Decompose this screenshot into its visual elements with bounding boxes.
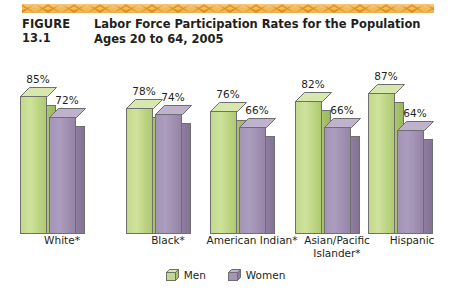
bar-value-label: 72% — [47, 94, 87, 106]
legend-label: Men — [184, 269, 206, 281]
legend-label: Women — [246, 269, 286, 281]
bar-women — [155, 105, 191, 234]
bar-value-label: 82% — [293, 78, 333, 90]
bar-side-face — [182, 123, 191, 234]
bar-value-label: 85% — [18, 73, 58, 85]
bar-top-face — [295, 92, 332, 102]
figure-container: FIGURE 13.1Labor Force Participation Rat… — [0, 0, 451, 294]
bar-front-face — [324, 127, 351, 234]
bar-top-face — [324, 118, 361, 128]
bar-front-face — [210, 111, 237, 234]
bar-value-label: 66% — [237, 104, 277, 116]
bar-front-face — [368, 93, 395, 234]
bar-front-face — [20, 96, 47, 234]
figure-title-block: FIGURE 13.1Labor Force Participation Rat… — [22, 17, 442, 46]
bar-value-label: 64% — [395, 107, 435, 119]
bar-side-face — [424, 139, 433, 234]
bar-side-face — [351, 136, 360, 234]
bar-front-face — [295, 101, 322, 234]
legend-item-men[interactable]: Men — [166, 269, 206, 281]
bar-side-face — [266, 136, 275, 234]
bar-women — [239, 118, 275, 234]
bar-group: 76%66% — [210, 52, 275, 234]
bar-front-face — [155, 114, 182, 234]
zigzag-divider-icon — [22, 4, 434, 13]
bar-front-face — [397, 130, 424, 234]
bar-side-face — [76, 126, 85, 234]
bar-women — [397, 121, 433, 234]
bar-top-face — [397, 121, 434, 131]
bar-top-face — [239, 118, 276, 128]
bar-value-label: 87% — [366, 70, 406, 82]
page-title: Labor Force Participation Rates for the … — [94, 17, 424, 46]
figure-number: FIGURE 13.1 — [22, 17, 94, 45]
bar-women — [49, 108, 85, 234]
bar-group: 78%74% — [126, 52, 191, 234]
category-axis-labels: White*Black*American Indian*Asian/Pacifi… — [0, 234, 451, 268]
bar-value-label: 66% — [322, 104, 362, 116]
bar-top-face — [368, 84, 405, 94]
bar-top-face — [155, 105, 192, 115]
legend-swatch-icon — [166, 269, 179, 281]
category-label: Hispanic — [352, 234, 451, 247]
bar-top-face — [49, 108, 86, 118]
chart-plot-area: 85%72%78%74%76%66%82%66%87%64% — [0, 52, 451, 234]
bar-front-face — [239, 127, 266, 234]
bar-value-label: 74% — [153, 91, 193, 103]
bar-women — [324, 118, 360, 234]
category-label: White* — [2, 234, 122, 247]
bar-front-face — [49, 117, 76, 234]
bar-group: 87%64% — [368, 52, 433, 234]
bar-group: 82%66% — [295, 52, 360, 234]
bar-value-label: 76% — [208, 88, 248, 100]
legend-swatch-icon — [228, 269, 241, 281]
legend-item-women[interactable]: Women — [228, 269, 286, 281]
bar-group: 85%72% — [20, 52, 85, 234]
chart-legend: MenWomen — [0, 264, 451, 286]
bar-front-face — [126, 108, 153, 234]
